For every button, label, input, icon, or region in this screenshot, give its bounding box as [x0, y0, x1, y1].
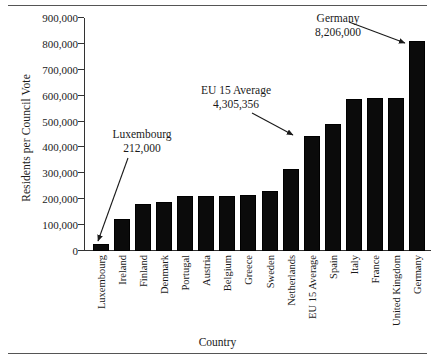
y-tick-label: 0: [6, 245, 78, 257]
x-tick-label: Netherlands: [285, 255, 296, 306]
y-tick-mark: [78, 17, 84, 18]
bar[interactable]: [262, 191, 278, 251]
x-tick-label-slot: Denmark: [153, 253, 174, 345]
bar-slot: [365, 18, 386, 251]
y-tick-label: 700,000: [6, 64, 78, 76]
figure: Residents per Council Vote 0100,000200,0…: [0, 0, 435, 364]
bar[interactable]: [135, 204, 151, 251]
x-tick-label: Greece: [243, 255, 254, 285]
bar[interactable]: [114, 219, 130, 251]
x-axis-title: Country: [0, 336, 435, 348]
bar-slot: [301, 18, 322, 251]
bar-slot: [322, 18, 343, 251]
top-divider-rule: [8, 5, 427, 6]
y-tick-mark: [78, 146, 84, 147]
annotation-germany-label: Germany: [317, 12, 360, 24]
bar[interactable]: [283, 169, 299, 251]
bar-slot: [407, 18, 428, 251]
x-tick-label: Finland: [137, 255, 148, 287]
bar-slot: [344, 18, 365, 251]
x-tick-label-slot: Austria: [196, 253, 217, 345]
y-tick-mark: [78, 69, 84, 70]
x-tick-label: Ireland: [116, 255, 127, 285]
x-tick-label-slot: Netherlands: [280, 253, 301, 345]
x-tick-label-slot: Portugal: [175, 253, 196, 345]
x-tick-label: Spain: [327, 255, 338, 279]
y-tick-label: 600,000: [6, 90, 78, 102]
x-tick-label: Denmark: [158, 255, 169, 294]
x-tick-label: Italy: [349, 255, 360, 274]
x-tick-label-slot: Italy: [344, 253, 365, 345]
annotation-germany: Germany 8,206,000: [288, 12, 388, 39]
x-tick-label-group: LuxembourgIrelandFinlandDenmarkPortugalA…: [85, 253, 431, 345]
x-tick-label: Portugal: [180, 255, 191, 291]
x-tick-label-slot: Ireland: [111, 253, 132, 345]
x-tick-label-slot: United Kingdom: [386, 253, 407, 345]
bar[interactable]: [219, 196, 235, 251]
y-tick-label: 900,000: [6, 12, 78, 24]
x-tick-label-slot: Luxembourg: [90, 253, 111, 345]
bar-slot: [386, 18, 407, 251]
bar[interactable]: [304, 136, 320, 251]
bottom-divider-rule: [8, 353, 427, 354]
x-tick-label: Luxembourg: [95, 255, 106, 309]
y-tick-mark: [78, 172, 84, 173]
x-tick-label: Belgium: [222, 255, 233, 291]
y-tick-mark: [78, 198, 84, 199]
bar[interactable]: [93, 244, 109, 252]
y-tick-mark: [78, 250, 84, 251]
annotation-eu15: EU 15 Average 4,305,356: [176, 84, 296, 111]
bar-slot: [217, 18, 238, 251]
x-tick-label-slot: Germany: [407, 253, 428, 345]
y-tick-label-group: 0100,000200,000300,000400,000500,000600,…: [0, 18, 78, 251]
y-tick-mark: [78, 95, 84, 96]
bar-slot: [196, 18, 217, 251]
annotation-luxembourg-label: Luxembourg: [112, 128, 171, 140]
x-tick-label: Austria: [201, 255, 212, 286]
bar[interactable]: [367, 98, 383, 251]
x-tick-label-slot: Belgium: [217, 253, 238, 345]
y-tick-mark: [78, 224, 84, 225]
bar-slot: [259, 18, 280, 251]
annotation-eu15-value: 4,305,356: [176, 98, 296, 112]
x-tick-label-slot: EU 15 Average: [301, 253, 322, 345]
bar-slot: [238, 18, 259, 251]
x-tick-label: EU 15 Average: [306, 255, 317, 319]
bar[interactable]: [240, 195, 256, 251]
annotation-luxembourg-value: 212,000: [88, 142, 196, 156]
x-tick-label: Sweden: [264, 255, 275, 288]
x-tick-label: France: [370, 255, 381, 284]
annotation-luxembourg: Luxembourg 212,000: [88, 128, 196, 155]
x-tick-label-slot: Sweden: [259, 253, 280, 345]
bar[interactable]: [409, 41, 425, 251]
y-tick-label: 300,000: [6, 167, 78, 179]
x-tick-label: United Kingdom: [391, 255, 402, 326]
x-tick-label-slot: Greece: [238, 253, 259, 345]
bar[interactable]: [388, 98, 404, 251]
bar[interactable]: [177, 196, 193, 251]
y-tick-label: 400,000: [6, 141, 78, 153]
x-tick-label-slot: Spain: [322, 253, 343, 345]
bar[interactable]: [156, 202, 172, 251]
x-tick-label-slot: Finland: [132, 253, 153, 345]
bar-slot: [280, 18, 301, 251]
bar[interactable]: [325, 124, 341, 251]
bar[interactable]: [346, 99, 362, 251]
annotation-eu15-label: EU 15 Average: [201, 84, 271, 96]
annotation-germany-value: 8,206,000: [288, 26, 388, 40]
bar[interactable]: [198, 196, 214, 251]
x-tick-label: Germany: [412, 255, 423, 294]
y-tick-mark: [78, 121, 84, 122]
y-tick-label: 500,000: [6, 116, 78, 128]
y-tick-label: 100,000: [6, 219, 78, 231]
y-tick-label: 200,000: [6, 193, 78, 205]
y-tick-label: 800,000: [6, 38, 78, 50]
y-tick-mark: [78, 43, 84, 44]
x-tick-label-slot: France: [365, 253, 386, 345]
